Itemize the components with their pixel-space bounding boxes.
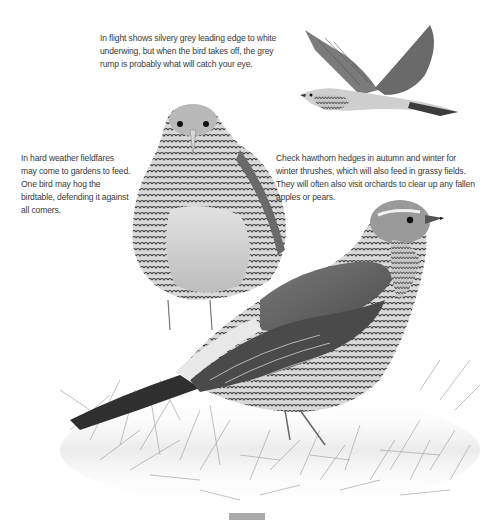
caption-line: apples or pears. [276, 191, 475, 204]
caption-line: may come to gardens to feed. [21, 165, 130, 178]
caption-flight: In flight shows silvery grey leading edg… [100, 32, 276, 71]
caption-line: birdtable, defending it against [21, 191, 130, 204]
caption-line: winter thrushes, which will also feed in… [276, 165, 475, 178]
fieldfare-in-flight [300, 25, 458, 116]
caption-line: all comers. [21, 204, 130, 217]
caption-line: underwing, but when the bird takes off, … [100, 45, 276, 58]
fieldfare-front-view [133, 104, 286, 330]
caption-hard-weather: In hard weather fieldfares may come to g… [21, 152, 130, 217]
page-marker-bar [229, 513, 265, 520]
caption-hawthorn-hedges: Check hawthorn hedges in autumn and wint… [276, 152, 475, 204]
caption-line: rump is probably what will catch your ey… [100, 58, 276, 71]
caption-line: In hard weather fieldfares [21, 152, 130, 165]
caption-line: They will often also visit orchards to c… [276, 178, 475, 191]
caption-line: In flight shows silvery grey leading edg… [100, 32, 276, 45]
caption-line: One bird may hog the [21, 178, 130, 191]
caption-line: Check hawthorn hedges in autumn and wint… [276, 152, 475, 165]
fieldfare-illustration [0, 0, 492, 522]
